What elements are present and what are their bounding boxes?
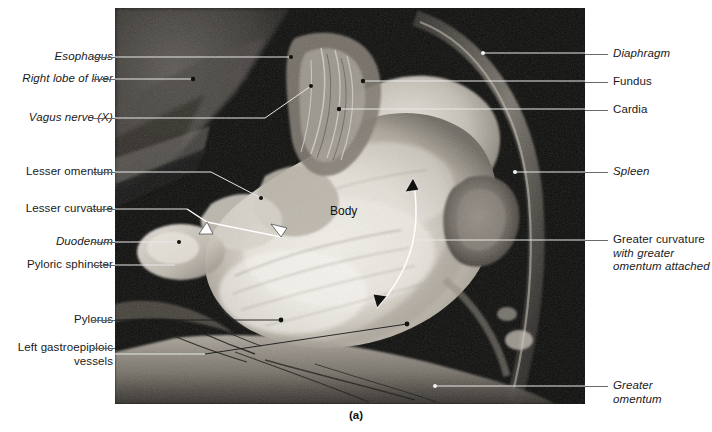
- leader-esophagus: [92, 57, 115, 58]
- label-fundus: Fundus: [613, 75, 652, 89]
- leader-greater-omentum: [585, 386, 608, 387]
- cadaver-dissection-photo: Body: [115, 8, 585, 404]
- in-photo-label-body: Body: [330, 204, 357, 218]
- leader-pyloric-sphincter: [92, 265, 115, 266]
- leader-lesser-omentum: [92, 172, 115, 173]
- leader-spleen: [585, 172, 608, 173]
- figure-caption: (a): [0, 409, 712, 421]
- label-greater-curvature-main: Greater curvature: [613, 233, 705, 245]
- label-greater-curvature-sub: with greater omentum attached: [613, 247, 710, 274]
- leader-fundus: [585, 82, 608, 83]
- label-cardia: Cardia: [613, 103, 647, 117]
- label-greater-curvature: Greater curvaturewith greater omentum at…: [613, 233, 710, 274]
- label-greater-omentum: Greater omentum: [613, 379, 662, 406]
- leader-right-lobe-of-liver: [92, 79, 115, 80]
- leader-vagus-nerve: [92, 118, 115, 119]
- label-spleen: Spleen: [613, 165, 649, 179]
- anatomy-figure: Body Esophagus Right lobe of liver Vagus…: [0, 0, 712, 432]
- leader-pylorus: [92, 320, 115, 321]
- leader-greater-curvature: [585, 240, 608, 241]
- label-diaphragm: Diaphragm: [613, 47, 670, 61]
- leader-cardia: [585, 110, 608, 111]
- leader-diaphragm: [585, 54, 608, 55]
- leader-lesser-curvature: [92, 209, 115, 210]
- leader-duodenum: [92, 242, 115, 243]
- leader-left-gastroepiploic-vessels: [92, 348, 115, 349]
- label-left-gastroepiploic-vessels: Left gastroepiploic vessels: [18, 341, 113, 368]
